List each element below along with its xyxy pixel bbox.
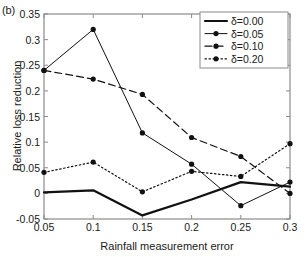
legend-sample-marker-2	[213, 44, 218, 49]
series-marker	[140, 189, 145, 194]
series-marker	[189, 169, 194, 174]
series-marker	[41, 68, 46, 73]
series-line-2	[44, 70, 290, 193]
legend-entry-label-0: δ=0.00	[231, 15, 263, 27]
series-marker	[91, 76, 96, 81]
series-marker	[238, 154, 243, 159]
series-marker	[41, 170, 46, 175]
legend-sample-marker-1	[213, 31, 218, 36]
series-marker	[140, 92, 145, 97]
series-marker	[91, 160, 96, 165]
legend-entry-label-2: δ=0.10	[231, 40, 263, 52]
series-marker	[287, 141, 292, 146]
series-marker	[91, 27, 96, 32]
series-line-3	[44, 144, 290, 192]
series-marker	[287, 180, 292, 185]
legend-entry-label-3: δ=0.20	[231, 53, 263, 65]
series-marker	[238, 203, 243, 208]
series-marker	[238, 174, 243, 179]
figure-panel-b: (b) Relative loss reduction Rainfall mea…	[0, 0, 305, 257]
legend-sample-marker-3	[213, 56, 218, 61]
series-marker	[140, 130, 145, 135]
series-marker	[287, 191, 292, 196]
series-marker	[189, 162, 194, 167]
series-marker	[189, 135, 194, 140]
legend-entry-label-1: δ=0.05	[231, 28, 263, 40]
series-line-0	[44, 182, 290, 215]
